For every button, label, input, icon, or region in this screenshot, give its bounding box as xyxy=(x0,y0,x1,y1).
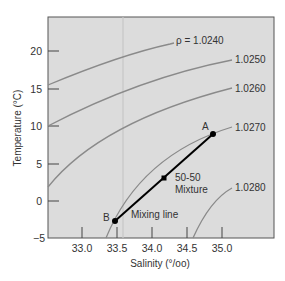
y-tick-label: 5 xyxy=(36,158,42,170)
x-axis-title: Salinity (°/oo) xyxy=(130,258,190,269)
x-tick-label: 33.0 xyxy=(72,242,93,254)
y-tick-label: 20 xyxy=(30,45,42,57)
point-b-marker xyxy=(112,218,118,224)
x-tick-label: 35.0 xyxy=(212,242,233,254)
ts-diagram: 20 15 10 5 0 −5 Temperature (°C) 33.0 33… xyxy=(0,0,285,281)
point-b-label: B xyxy=(103,212,110,223)
y-tick-label: 0 xyxy=(36,195,42,207)
y-tick-label: 10 xyxy=(30,120,42,132)
mixing-line-label: Mixing line xyxy=(131,209,179,220)
y-tick-label: −5 xyxy=(33,232,45,244)
point-a-label: A xyxy=(202,121,209,132)
mixture-label: 50-50 xyxy=(175,172,201,183)
x-tick-label: 34.5 xyxy=(177,242,198,254)
isopycnal-label: ρ = 1.0240 xyxy=(176,35,224,46)
point-a-marker xyxy=(210,131,216,137)
x-tick-label: 33.5 xyxy=(107,242,128,254)
y-axis-title: Temperature (°C) xyxy=(12,90,23,167)
mixture-label: Mixture xyxy=(175,184,208,195)
isopycnal-label: 1.0250 xyxy=(235,54,266,65)
isopycnal-label: 1.0270 xyxy=(235,122,266,133)
x-tick-label: 34.0 xyxy=(142,242,163,254)
isopycnal-label: 1.0280 xyxy=(235,182,266,193)
isopycnal-label: 1.0260 xyxy=(235,83,266,94)
mixture-marker xyxy=(162,176,167,181)
y-tick-label: 15 xyxy=(30,83,42,95)
